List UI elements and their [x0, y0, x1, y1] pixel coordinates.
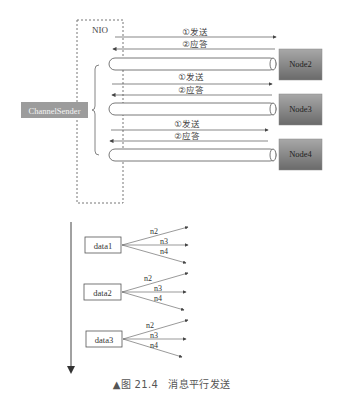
target-label: n3	[154, 284, 162, 293]
data-label: data3	[95, 335, 113, 345]
nio-label: NIO	[92, 25, 108, 35]
target-label: n3	[160, 237, 168, 246]
target-label: n2	[144, 274, 152, 283]
pipe-end	[270, 149, 276, 161]
figure-caption: ▲图 21.4 消息平行发送	[0, 376, 343, 391]
channel-pipe	[109, 149, 276, 161]
channel-sender-label: ChannelSender	[29, 106, 81, 116]
target-label: n3	[150, 331, 158, 340]
node-label: Node4	[289, 149, 312, 159]
data-label: data1	[94, 241, 112, 251]
send-label: ①发送	[174, 119, 200, 129]
data-label: data2	[93, 288, 111, 298]
pipe-end	[270, 58, 276, 70]
target-label: n4	[160, 247, 168, 256]
reply-label: ②应答	[174, 131, 200, 141]
data-item-1: data1 n2 n3 n4	[85, 227, 188, 263]
target-label: n4	[154, 294, 162, 303]
channel-group-node3: ①发送 ②应答	[109, 72, 276, 115]
channel-group-node2: ①发送 ②应答	[109, 27, 276, 70]
node-node4: Node4	[279, 139, 322, 170]
target-label: n2	[146, 321, 154, 330]
send-label: ①发送	[178, 72, 204, 82]
node-label: Node3	[289, 104, 312, 114]
brace	[92, 65, 99, 155]
node-node2: Node2	[279, 49, 322, 80]
pipe-end	[270, 103, 276, 115]
channel-pipe	[109, 103, 276, 115]
data-item-2: data2 n2 n3 n4	[84, 273, 188, 310]
target-label: n4	[150, 341, 158, 350]
target-label: n2	[150, 227, 158, 236]
diagram-canvas: NIO ChannelSender ①发送 ②应答 ①发送 ②应答 ①发送 ②应…	[0, 0, 343, 403]
data-item-3: data3 n2 n3 n4	[86, 320, 188, 357]
node-node3: Node3	[279, 94, 322, 125]
reply-label: ②应答	[182, 39, 208, 49]
channel-pipe	[109, 58, 276, 70]
node-label: Node2	[289, 59, 312, 69]
send-label: ①发送	[182, 27, 208, 37]
channel-group-node4: ①发送 ②应答	[109, 119, 276, 161]
reply-label: ②应答	[178, 85, 204, 95]
